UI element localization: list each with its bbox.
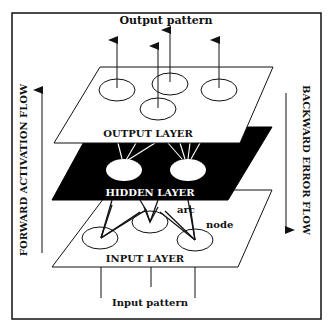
input-pattern-label: Input pattern — [112, 297, 189, 308]
hidden-layer-label: HIDDEN LAYER — [105, 187, 195, 198]
hidden-node — [106, 159, 142, 181]
neural-network-diagram: Output pattern INPUT LAYER Input pattern — [0, 0, 330, 333]
input-layer-label: INPUT LAYER — [106, 253, 185, 264]
output-pattern-label: Output pattern — [119, 14, 212, 27]
input-layer: INPUT LAYER — [52, 190, 272, 267]
forward-activation-flow-label: FORWARD ACTIVATION FLOW — [18, 83, 29, 256]
backward-error-flow-label: BACKWARD ERROR FLOW — [301, 85, 312, 236]
output-layer-label: OUTPUT LAYER — [103, 128, 193, 139]
arc-annotation: arc — [177, 204, 195, 215]
node-annotation: node — [206, 219, 233, 230]
output-layer: OUTPUT LAYER — [54, 67, 273, 143]
input-pattern-lines — [101, 267, 195, 298]
hidden-node — [170, 159, 206, 181]
